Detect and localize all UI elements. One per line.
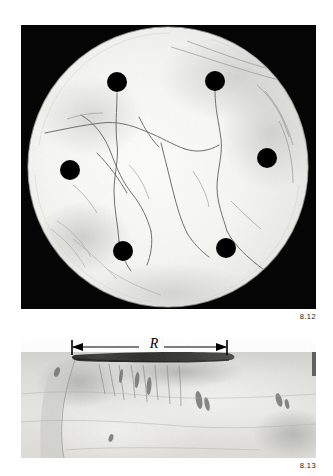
figure-8-12-panel [21, 25, 316, 309]
figure-page: 8.12 [0, 0, 333, 476]
hole-bottom-right [216, 238, 236, 258]
section-micrograph [21, 338, 316, 458]
hole-top-left [107, 72, 127, 92]
dimension-label-R: R [144, 337, 164, 351]
figure-8-13-panel [21, 338, 316, 458]
hole-bottom-left [113, 241, 133, 261]
edge-artifact [312, 352, 316, 376]
specimen-section [21, 352, 316, 458]
disc-photograph [21, 25, 316, 309]
hole-top-right [205, 71, 225, 91]
figure-8-12-caption: 8.12 [256, 312, 316, 321]
hole-mid-right [257, 148, 277, 168]
figure-8-13-caption: 8.13 [256, 461, 316, 470]
hole-mid-left [60, 160, 80, 180]
